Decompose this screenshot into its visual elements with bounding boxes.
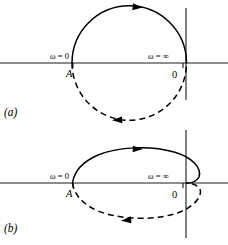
panel-b-caption: (b) — [4, 222, 18, 235]
panel-a-omega-zero-label: ω = 0 — [50, 51, 69, 61]
panel-a-point-a-label: A — [65, 68, 73, 79]
panel-b-origin-label: 0 — [172, 189, 177, 200]
panel-b-omega-zero-label: ω = 0 — [50, 171, 69, 181]
panel-b-locus-dashed — [73, 183, 201, 218]
panel-a-omega-infinity-label: ω = ∞ — [148, 51, 169, 61]
panel-b-locus-solid — [73, 148, 200, 183]
nyquist-figure: ω = 0 A ω = ∞ 0 (a) ω = 0 A ω = ∞ 0 (b) — [0, 0, 228, 245]
panel-b-arrow-top-icon — [133, 146, 143, 152]
panel-b-omega-infinity-label: ω = ∞ — [148, 171, 169, 181]
panel-a-origin-label: 0 — [172, 69, 177, 80]
panel-a-locus-dashed — [72, 63, 187, 120]
panel-b: ω = 0 A ω = ∞ 0 (b) — [0, 130, 228, 238]
panel-a-caption: (a) — [4, 106, 18, 119]
panel-a: ω = 0 A ω = ∞ 0 (a) — [0, 3, 228, 123]
panel-a-locus-solid — [72, 6, 187, 63]
panel-b-point-a-label: A — [65, 188, 73, 199]
